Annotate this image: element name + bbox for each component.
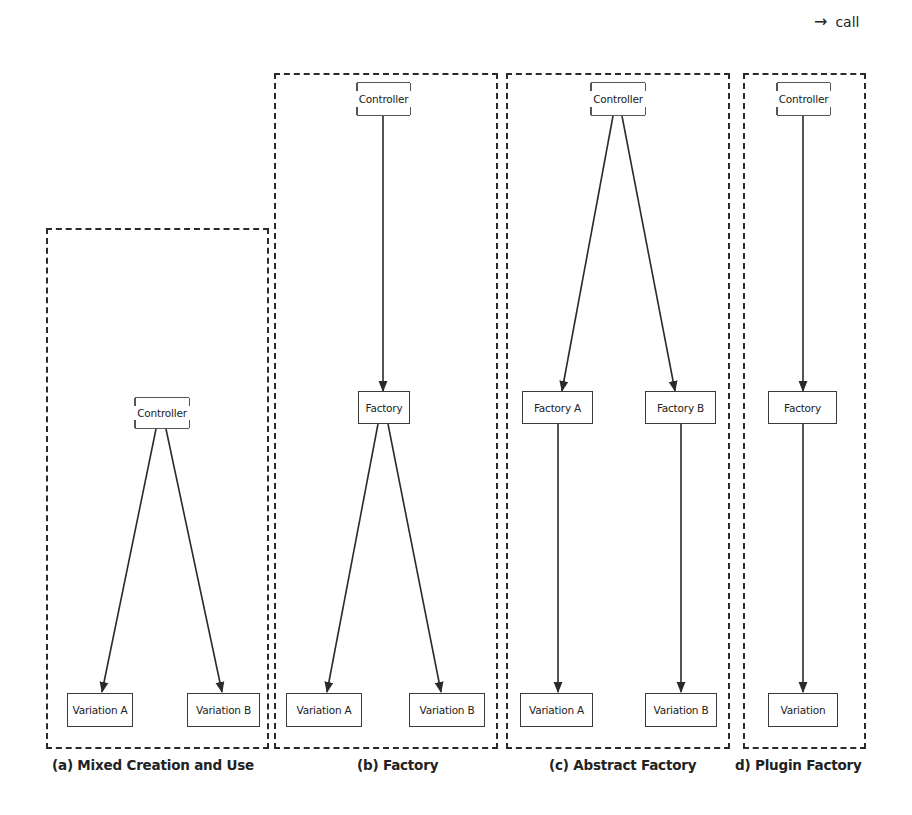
factory-label: Factory [784, 402, 821, 414]
variation-node: Variation [768, 693, 838, 727]
controller-node: Controller [591, 82, 645, 116]
variation-b-label: Variation B [654, 704, 709, 716]
factory-a-node: Factory A [522, 391, 593, 424]
call-arrow-icon: → [814, 12, 827, 31]
variation-b-node: Variation B [409, 693, 485, 727]
panel-mixed-creation-and-use [46, 228, 269, 749]
factory-node: Factory [768, 391, 837, 424]
legend-label: call [835, 14, 859, 30]
variation-b-label: Variation B [196, 704, 251, 716]
variation-a-label: Variation A [73, 704, 128, 716]
variation-b-label: Variation B [420, 704, 475, 716]
controller-node: Controller [357, 82, 410, 116]
factory-label: Factory [366, 402, 403, 414]
caption-b: (b) Factory [357, 757, 438, 773]
controller-node: Controller [777, 82, 830, 116]
variation-label: Variation [781, 704, 826, 716]
caption-d: d) Plugin Factory [735, 757, 862, 773]
factory-b-label: Factory B [657, 402, 704, 414]
controller-label: Controller [593, 93, 643, 105]
variation-b-node: Variation B [187, 693, 260, 727]
factory-b-node: Factory B [645, 391, 716, 424]
caption-a: (a) Mixed Creation and Use [52, 757, 254, 773]
controller-label: Controller [137, 407, 187, 419]
caption-c: (c) Abstract Factory [549, 757, 696, 773]
variation-a-label: Variation A [529, 704, 584, 716]
variation-a-node: Variation A [67, 693, 133, 727]
variation-a-node: Variation A [520, 693, 593, 727]
factory-a-label: Factory A [534, 402, 581, 414]
variation-a-label: Variation A [297, 704, 352, 716]
controller-label: Controller [779, 93, 829, 105]
controller-label: Controller [359, 93, 409, 105]
controller-node: Controller [135, 397, 189, 429]
variation-a-node: Variation A [286, 693, 362, 727]
variation-b-node: Variation B [645, 693, 717, 727]
legend: → call [814, 12, 859, 31]
factory-node: Factory [358, 391, 410, 424]
